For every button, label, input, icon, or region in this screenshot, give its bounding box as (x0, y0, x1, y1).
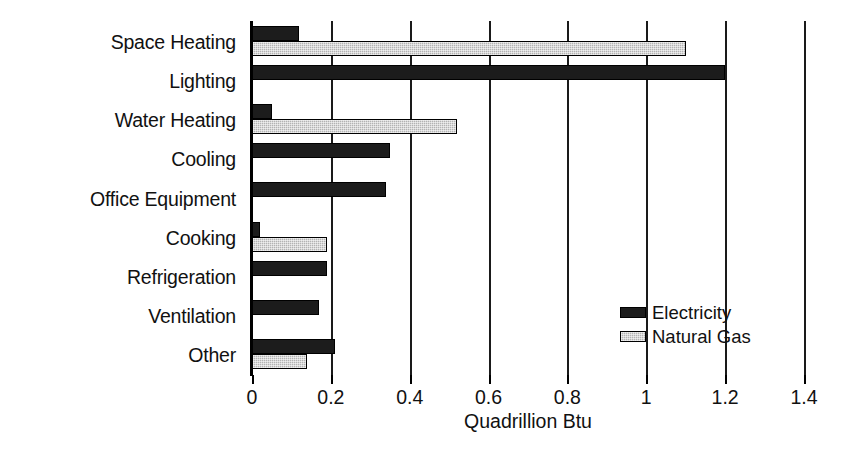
y-axis-category-labels: Space HeatingLightingWater HeatingCoolin… (0, 22, 244, 375)
bar-electricity-other (252, 339, 335, 354)
bar-electricity-cooking (252, 222, 260, 237)
bar-group-space-heating (252, 22, 804, 61)
y-axis-label-lighting: Lighting (0, 70, 236, 92)
y-axis-label-office-equipment: Office Equipment (0, 188, 236, 210)
bar-group-refrigeration (252, 257, 804, 296)
bar-group-water-heating (252, 100, 804, 139)
x-axis-tick-label-0: 0 (217, 386, 287, 409)
x-axis-tick-1 (646, 375, 648, 384)
y-axis-label-cooking: Cooking (0, 227, 236, 249)
legend-item-natural-gas: Natural Gas (620, 324, 800, 348)
x-axis-tick-label-0.8: 0.8 (532, 386, 602, 409)
x-axis-tick-1.4 (804, 375, 806, 384)
y-axis-label-other: Other (0, 344, 236, 366)
bar-electricity-cooling (252, 143, 390, 158)
x-axis-tick-0.8 (567, 375, 569, 384)
y-axis-label-space-heating: Space Heating (0, 31, 236, 53)
x-axis-tick-1.2 (725, 375, 727, 384)
bar-electricity-lighting (252, 65, 725, 80)
legend-label-natural-gas: Natural Gas (652, 326, 751, 347)
x-axis-tick-0.4 (410, 375, 412, 384)
bar-electricity-refrigeration (252, 261, 327, 276)
bar-natural-gas-cooking (252, 237, 327, 252)
legend-label-electricity: Electricity (652, 302, 731, 323)
bar-natural-gas-space-heating (252, 41, 686, 56)
bar-group-lighting (252, 61, 804, 100)
bar-electricity-ventilation (252, 300, 319, 315)
bar-group-cooling (252, 140, 804, 179)
legend-item-electricity: Electricity (620, 300, 800, 324)
y-axis-label-water-heating: Water Heating (0, 109, 236, 131)
gridline-1.4 (804, 21, 806, 376)
bar-group-office-equipment (252, 179, 804, 218)
x-axis-tick-label-0.4: 0.4 (375, 386, 445, 409)
x-axis-tick-label-1: 1 (611, 386, 681, 409)
legend-swatch-natural-gas-icon (620, 331, 646, 342)
chart-legend: Electricity Natural Gas (620, 300, 800, 348)
bar-electricity-space-heating (252, 26, 299, 41)
y-axis-label-ventilation: Ventilation (0, 305, 236, 327)
bar-electricity-office-equipment (252, 182, 386, 197)
y-axis-label-refrigeration: Refrigeration (0, 266, 236, 288)
x-axis-tick-label-0.6: 0.6 (454, 386, 524, 409)
legend-swatch-electricity-icon (620, 307, 646, 318)
x-axis-tick-0 (252, 375, 254, 384)
bar-natural-gas-water-heating (252, 119, 457, 134)
x-axis-tick-label-0.2: 0.2 (296, 386, 366, 409)
y-axis-label-cooling: Cooling (0, 148, 236, 170)
x-axis-title: Quadrillion Btu (252, 409, 804, 433)
bar-natural-gas-other (252, 354, 307, 369)
bar-group-cooking (252, 218, 804, 257)
bar-electricity-water-heating (252, 104, 272, 119)
bar-chart: Space HeatingLightingWater HeatingCoolin… (0, 0, 851, 466)
x-axis-tick-0.2 (331, 375, 333, 384)
x-axis-tick-0.6 (489, 375, 491, 384)
x-axis-tick-label-1.2: 1.2 (690, 386, 760, 409)
x-axis-tick-label-1.4: 1.4 (769, 386, 839, 409)
